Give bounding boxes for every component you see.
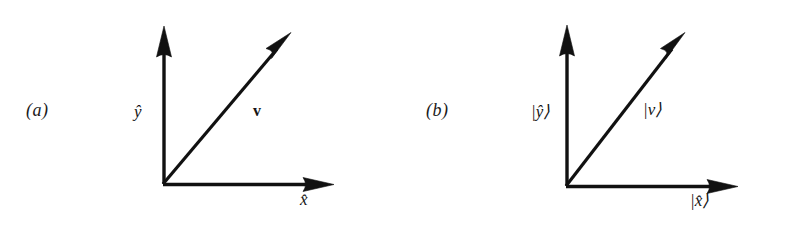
panel-a-axes-diagram bbox=[0, 0, 393, 231]
vector-label: |v⟩ bbox=[643, 101, 662, 118]
x-axis-label: x̂ bbox=[300, 191, 308, 208]
vector-arrowhead-icon bbox=[266, 33, 291, 59]
vector-label: v bbox=[253, 103, 262, 119]
y-axis-arrowhead-icon bbox=[560, 25, 575, 56]
figure-container: (a) ŷ x̂ bbox=[0, 0, 786, 231]
x-axis-arrowhead-icon bbox=[707, 180, 738, 194]
y-axis-arrowhead-icon bbox=[157, 26, 172, 57]
panel-b: (b) |ŷ⟩ |x̂ bbox=[393, 0, 786, 231]
x-axis-label: |x̂⟩ bbox=[690, 192, 709, 209]
panel-b-svg bbox=[393, 0, 786, 231]
y-axis-label: ŷ bbox=[134, 103, 142, 120]
panel-a: (a) ŷ x̂ bbox=[0, 0, 393, 231]
vector-arrowhead-icon bbox=[661, 33, 686, 59]
panel-b-axes-diagram bbox=[393, 0, 786, 231]
y-axis-label: |ŷ⟩ bbox=[531, 103, 550, 120]
panel-a-svg bbox=[0, 0, 393, 231]
